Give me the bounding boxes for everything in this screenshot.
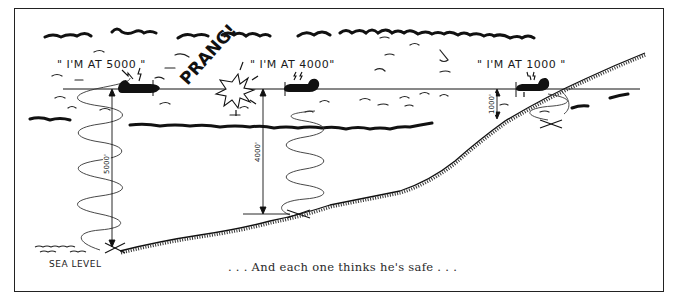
plane-left-icon <box>118 80 160 96</box>
explosion-burst-icon <box>216 74 254 108</box>
dimension-label-4000: 4000' <box>254 141 262 163</box>
sea-waves <box>35 246 86 252</box>
ground-x-marks <box>105 120 562 253</box>
cloud-top-band <box>45 29 534 38</box>
terrain-hatching <box>121 55 646 253</box>
dimension-lines <box>109 89 500 247</box>
terrain-profile <box>120 53 645 251</box>
dimension-label-1000: 1000' <box>488 93 496 115</box>
dimension-label-5000: 5000' <box>103 153 111 175</box>
quote-plane-middle: " I'M AT 4000" <box>250 58 335 71</box>
figure-caption: . . . And each one thinks he's safe . . … <box>0 260 675 274</box>
plane-right-icon <box>516 78 549 97</box>
quote-plane-right: " I'M AT 1000 " <box>477 58 566 71</box>
quote-plane-left: " I'M AT 5000 " <box>57 58 146 71</box>
plane-middle-icon <box>284 79 319 96</box>
caption-text: . . . And each one thinks he's safe . . … <box>228 260 457 274</box>
